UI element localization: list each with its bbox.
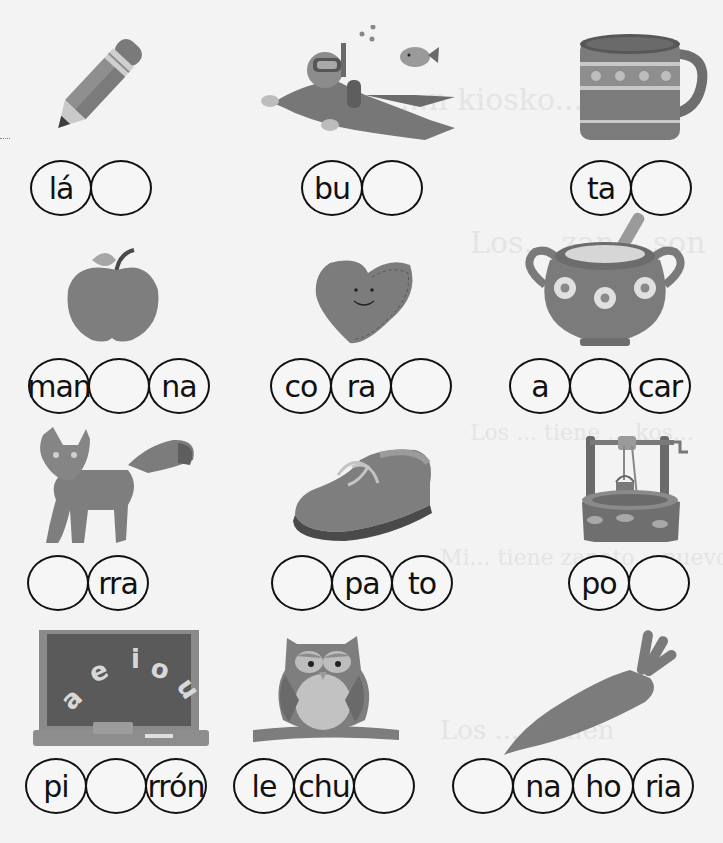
apple-picture xyxy=(62,238,172,348)
syllable-given: po xyxy=(568,555,630,611)
syllable-chain-azucarero: a car xyxy=(509,358,693,414)
diver-picture xyxy=(255,25,465,145)
syllable-given: na xyxy=(148,358,210,414)
heart-picture xyxy=(310,255,420,350)
syllable-blank-input[interactable] xyxy=(353,758,415,814)
syllable-blank-input[interactable] xyxy=(628,555,690,611)
syllable-given: car xyxy=(629,358,691,414)
syllable-given: na xyxy=(512,758,574,814)
syllable-given: ta xyxy=(570,160,632,216)
syllable-chain-taza: ta xyxy=(570,160,694,216)
syllable-blank-input[interactable] xyxy=(452,758,514,814)
syllable-given: chu xyxy=(293,758,355,814)
syllable-chain-lechuza: le chu xyxy=(233,758,417,814)
owl-picture xyxy=(245,630,405,748)
syllable-blank-input[interactable] xyxy=(90,160,152,216)
syllable-blank-input[interactable] xyxy=(85,758,147,814)
syllable-given: bu xyxy=(301,160,363,216)
syllable-chain-zanahoria: na ho ria xyxy=(452,758,696,814)
syllable-given: to xyxy=(391,555,453,611)
syllable-given: ho xyxy=(572,758,634,814)
syllable-chain-manzana: man na xyxy=(28,358,212,414)
carrot-picture xyxy=(500,630,685,755)
syllable-chain-buzo: bu xyxy=(301,160,425,216)
margin-mark xyxy=(0,138,10,139)
mug-picture xyxy=(578,32,713,147)
syllable-blank-input[interactable] xyxy=(630,160,692,216)
syllable-blank-input[interactable] xyxy=(390,358,452,414)
syllable-given: rrón xyxy=(145,758,207,814)
syllable-chain-corazon: co ra xyxy=(270,358,454,414)
syllable-blank-input[interactable] xyxy=(27,555,89,611)
syllable-blank-input[interactable] xyxy=(569,358,631,414)
syllable-given: le xyxy=(233,758,295,814)
syllable-given: pi xyxy=(25,758,87,814)
syllable-given: rra xyxy=(87,555,149,611)
well-picture xyxy=(580,432,690,542)
syllable-given: man xyxy=(28,358,90,414)
chalkboard-picture: a e i o u xyxy=(33,630,209,748)
syllable-chain-pozo: po xyxy=(568,555,692,611)
syllable-blank-input[interactable] xyxy=(361,160,423,216)
syllable-given: a xyxy=(509,358,571,414)
svg-text:i: i xyxy=(131,644,140,674)
syllable-chain-zorra: rra xyxy=(27,555,151,611)
syllable-given: pa xyxy=(331,555,393,611)
syllable-given: lá xyxy=(30,160,92,216)
shoe-picture xyxy=(290,445,438,545)
sugar-bowl-picture xyxy=(520,210,690,350)
syllable-blank-input[interactable] xyxy=(271,555,333,611)
syllable-blank-input[interactable] xyxy=(88,358,150,414)
pencil-picture xyxy=(38,30,148,155)
syllable-chain-lapiz: lá xyxy=(30,160,154,216)
fox-picture xyxy=(28,425,198,550)
syllable-chain-pizarron: pi rrón xyxy=(25,758,209,814)
worksheet-page: ...n kiosko... Los... zan... son Los ...… xyxy=(0,0,723,843)
syllable-given: ria xyxy=(632,758,694,814)
syllable-chain-zapato: pa to xyxy=(271,555,455,611)
syllable-given: co xyxy=(270,358,332,414)
syllable-given: ra xyxy=(330,358,392,414)
